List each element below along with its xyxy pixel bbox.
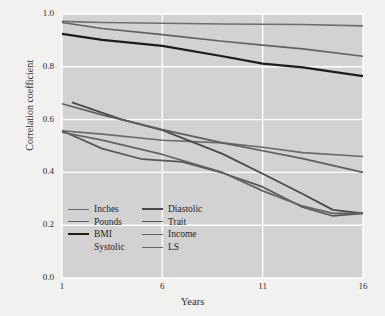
legend-item-trait[interactable]: Trait [142, 216, 216, 229]
y-tick-label: 0.2 [8, 219, 54, 229]
legend-label: Income [168, 228, 197, 241]
y-tick-label: 0.4 [8, 166, 54, 176]
legend-swatch-icon [142, 247, 163, 248]
x-tick-label: 6 [147, 281, 177, 291]
legend-item-systolic[interactable]: Systolic [68, 241, 142, 254]
y-tick-label: 0.6 [8, 114, 54, 124]
legend-label: Inches [94, 203, 119, 216]
y-axis-label: Correlation coefficient [24, 60, 35, 151]
legend-swatch-icon [68, 209, 89, 210]
x-axis-label: Years [0, 296, 385, 307]
legend-item-diastolic[interactable]: Diastolic [142, 203, 216, 216]
legend-label: Systolic [94, 241, 125, 254]
legend-swatch-icon [142, 221, 163, 222]
legend-swatch-icon [142, 208, 163, 210]
y-axis-label-wrap: Correlation coefficient [10, 60, 26, 230]
x-tick-label: 11 [248, 281, 278, 291]
x-tick-label: 16 [348, 281, 378, 291]
legend-swatch-icon [68, 221, 89, 222]
legend-row: BMIIncome [68, 228, 216, 241]
legend-item-income[interactable]: Income [142, 228, 216, 241]
legend-label: LS [168, 241, 179, 254]
legend-swatch-icon [68, 233, 89, 235]
legend-item-ls[interactable]: LS [142, 241, 216, 254]
y-tick-label: 0.8 [8, 61, 54, 71]
legend-row: PoundsTrait [68, 216, 216, 229]
legend-item-bmi[interactable]: BMI [68, 228, 142, 241]
legend-row: SystolicLS [68, 241, 216, 254]
legend-item-pounds[interactable]: Pounds [68, 216, 142, 229]
legend-label: Pounds [94, 216, 122, 229]
chart-figure: Correlation coefficient 0.00.20.40.60.81… [0, 0, 385, 316]
legend-label: Trait [168, 216, 186, 229]
y-tick-label: 1.0 [8, 8, 54, 18]
legend-label: BMI [94, 228, 112, 241]
legend-item-inches[interactable]: Inches [68, 203, 142, 216]
line-chart-plot [0, 0, 385, 316]
chart-legend: InchesDiastolicPoundsTraitBMIIncomeSysto… [68, 203, 216, 253]
legend-row: InchesDiastolic [68, 203, 216, 216]
legend-label: Diastolic [168, 203, 202, 216]
legend-swatch-icon [142, 234, 163, 235]
x-tick-label: 1 [47, 281, 77, 291]
